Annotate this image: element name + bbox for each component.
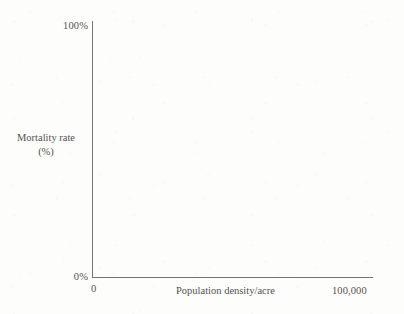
x-axis-title: Population density/acre (176, 284, 275, 297)
x-axis-line (92, 277, 373, 278)
y-axis-title-line2: (%) (6, 145, 86, 159)
y-axis-tick-label-100-percent: 100% (63, 20, 88, 32)
y-axis-tick-label-0-percent: 0% (74, 271, 88, 283)
y-axis-title-line1: Mortality rate (17, 132, 75, 143)
x-axis-tick-label-0: 0 (91, 283, 96, 295)
chart-figure: 100% 0% 0 100,000 Mortality rate (%) Pop… (0, 0, 404, 314)
x-axis-tick-label-100000: 100,000 (332, 285, 367, 297)
y-axis-title: Mortality rate (%) (6, 131, 86, 158)
plot-area (93, 21, 373, 277)
